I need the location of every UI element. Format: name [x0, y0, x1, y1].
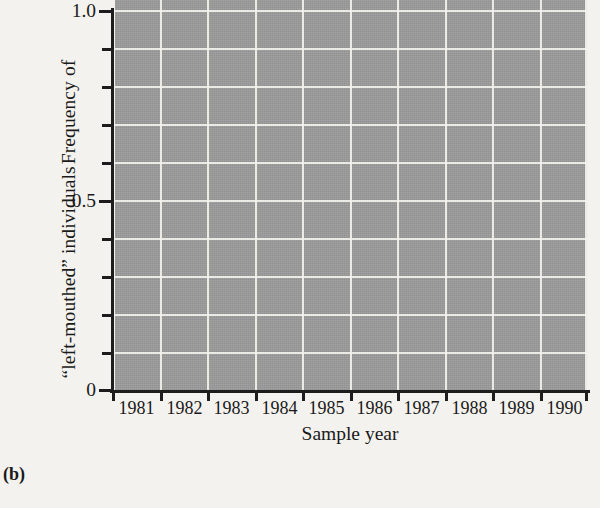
x-axis-title: Sample year [113, 423, 587, 445]
x-tick-label-1983: 1983 [208, 398, 255, 418]
x-tick-label-1989: 1989 [493, 398, 540, 418]
y-tick-label-1.0: 1.0 [72, 1, 96, 21]
x-tick-label-1981: 1981 [113, 398, 160, 418]
y-tick-0 [99, 389, 111, 392]
plot-area [113, 0, 587, 391]
y-axis-title-line-1: Frequency of [57, 60, 80, 165]
gridline-vertical-8 [492, 0, 494, 391]
y-tick-0.3 [102, 276, 111, 279]
gridline-vertical-9 [540, 0, 542, 391]
x-tick-label-1987: 1987 [398, 398, 445, 418]
y-axis-line [111, 8, 114, 393]
y-tick-0.8 [102, 86, 111, 89]
y-tick-0.4 [102, 238, 111, 241]
y-tick-0.9 [102, 48, 111, 51]
x-tick-label-1984: 1984 [256, 398, 303, 418]
y-axis-title: “left-mouthed” individuals Frequency of [45, 19, 91, 419]
gridline-vertical-2b [207, 0, 209, 391]
figure-panel-b: “left-mouthed” individuals Frequency of [0, 0, 600, 508]
y-tick-0.7 [102, 124, 111, 127]
y-tick-0.6 [102, 162, 111, 165]
x-tick-label-1985: 1985 [303, 398, 350, 418]
y-tick-0.5 [99, 200, 111, 203]
gridline-vertical-5 [350, 0, 352, 391]
y-tick-label-0.5: 0.5 [72, 191, 96, 211]
y-tick-0.2 [102, 314, 111, 317]
gridline-vertical-6 [397, 0, 399, 391]
x-tick-label-1990: 1990 [541, 398, 588, 418]
y-tick-label-0: 0 [86, 380, 96, 400]
gridline-vertical-1 [160, 0, 162, 391]
x-tick-label-1988: 1988 [446, 398, 493, 418]
gridline-vertical-7 [445, 0, 447, 391]
x-tick-label-1982: 1982 [161, 398, 208, 418]
y-tick-1.0 [99, 10, 111, 13]
gridline-vertical-10 [585, 0, 587, 391]
gridline-vertical-3 [255, 0, 257, 391]
y-tick-0.1 [102, 352, 111, 355]
panel-label: (b) [3, 464, 25, 485]
x-tick-label-1986: 1986 [351, 398, 398, 418]
gridline-vertical-4 [302, 0, 304, 391]
